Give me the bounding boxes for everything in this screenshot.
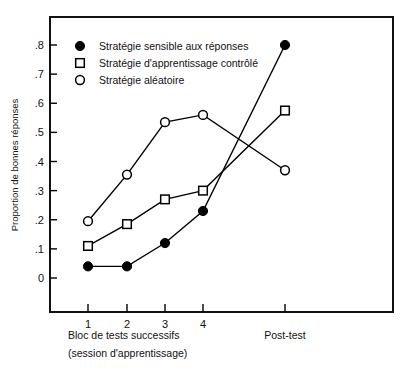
marker-filled-circle [280, 40, 289, 49]
x-tick-label: 4 [200, 318, 206, 330]
marker-open-square [199, 186, 208, 195]
y-tick-label: .7 [35, 68, 44, 80]
y-tick-label: .4 [35, 156, 44, 168]
marker-open-circle [76, 76, 85, 85]
marker-filled-circle [160, 238, 169, 247]
marker-open-circle [84, 217, 93, 226]
y-tick-label: .3 [35, 185, 44, 197]
marker-open-square [123, 220, 132, 229]
marker-open-circle [161, 118, 170, 127]
y-axis-title: Proportion de bonnes réponses [9, 98, 20, 231]
y-tick-label: .2 [35, 214, 44, 226]
y-tick-label: .5 [35, 126, 44, 138]
x-axis-group-label-line2: (session d'apprentissage) [68, 347, 187, 359]
legend-item: Stratégie sensible aux réponses [75, 40, 248, 52]
marker-open-square [84, 242, 93, 251]
marker-open-circle [123, 170, 132, 179]
y-tick-label: .1 [35, 243, 44, 255]
marker-filled-circle [122, 262, 131, 271]
y-tick-label: .8 [35, 39, 44, 51]
figure-container: 0.1.2.3.4.5.6.7.8 1234 Proportion de bon… [0, 0, 408, 373]
marker-filled-circle [83, 262, 92, 271]
marker-filled-circle [75, 41, 84, 50]
y-tick-label: 0 [38, 272, 44, 284]
x-axis-posttest-label: Post-test [264, 329, 306, 341]
marker-open-square [161, 195, 170, 204]
y-tick-label: .6 [35, 97, 44, 109]
legend-item: Stratégie d'apprentissage contrôlé [76, 57, 258, 69]
marker-open-circle [199, 111, 208, 120]
legend-label: Stratégie aléatoire [99, 74, 184, 86]
marker-filled-circle [198, 206, 207, 215]
legend-label: Stratégie d'apprentissage contrôlé [99, 57, 258, 69]
line-chart: 0.1.2.3.4.5.6.7.8 1234 Proportion de bon… [0, 0, 408, 373]
marker-open-square [281, 106, 290, 115]
marker-open-circle [281, 166, 290, 175]
marker-open-square [76, 59, 85, 68]
x-axis-group-label-line1: Bloc de tests successifs [68, 329, 179, 341]
legend-label: Stratégie sensible aux réponses [99, 40, 248, 52]
